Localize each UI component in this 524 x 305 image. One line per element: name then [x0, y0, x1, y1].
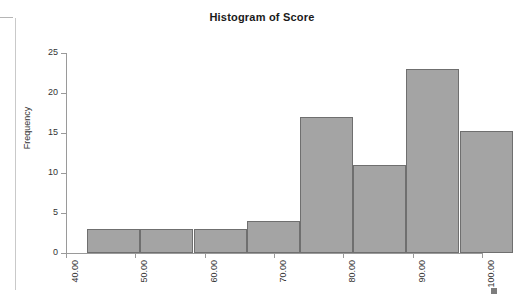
x-axis-tick-label: 60.00: [209, 260, 219, 283]
x-axis-tick: [343, 253, 344, 258]
x-axis-tick: [413, 253, 414, 258]
histogram-bar: [300, 117, 353, 253]
x-axis-tick: [274, 253, 275, 258]
histogram-bar: [353, 165, 406, 253]
x-axis-tick-label: 50.00: [139, 260, 149, 283]
x-axis-tick-label: 90.00: [417, 260, 427, 283]
y-axis-title: Frequency: [22, 107, 32, 150]
x-axis-tick-label: 100.00: [486, 260, 496, 288]
y-axis-tick: [61, 53, 66, 54]
histogram-bar: [140, 229, 193, 253]
histogram-bar: [460, 131, 513, 253]
histogram-plot-area: 051015202540.0050.0060.0070.0080.0090.00…: [0, 0, 524, 305]
y-axis-tick: [61, 93, 66, 94]
histogram-bar: [87, 229, 140, 253]
y-axis-tick: [61, 173, 66, 174]
y-axis-tick-label: 25: [18, 48, 58, 57]
histogram-bar: [194, 229, 247, 253]
y-axis-tick-label: 0: [18, 248, 58, 257]
x-axis-tick-label: 70.00: [278, 260, 288, 283]
x-axis-tick: [482, 253, 483, 258]
y-axis-tick-label: 20: [18, 88, 58, 97]
histogram-bar: [406, 69, 459, 253]
y-axis-tick-label: 5: [18, 208, 58, 217]
x-axis-tick: [135, 253, 136, 258]
resize-handle-icon[interactable]: [491, 288, 497, 294]
y-axis-line: [66, 53, 67, 254]
y-axis-tick: [61, 133, 66, 134]
chart-screenshot: Histogram of Score 051015202540.0050.006…: [0, 0, 524, 305]
y-axis-tick: [61, 213, 66, 214]
x-axis-tick: [205, 253, 206, 258]
x-axis-tick-label: 80.00: [347, 260, 357, 283]
x-axis-tick: [66, 253, 67, 258]
x-axis-tick-label: 40.00: [70, 260, 80, 283]
y-axis-tick-label: 10: [18, 168, 58, 177]
histogram-bar: [247, 221, 300, 253]
